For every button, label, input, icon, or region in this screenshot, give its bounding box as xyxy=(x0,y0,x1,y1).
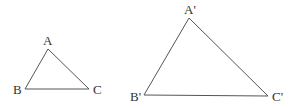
vertex-label-b: B xyxy=(13,82,22,97)
similar-triangles-diagram: A B C A' B' C' xyxy=(0,0,293,108)
vertex-label-c: C xyxy=(93,82,102,97)
triangle-abc: A B C xyxy=(13,33,102,97)
triangle-abc-shape xyxy=(25,49,89,89)
triangle-a-prime-b-prime-c-prime-shape xyxy=(144,18,268,96)
vertex-label-a: A xyxy=(43,33,53,48)
vertex-label-a-prime: A' xyxy=(184,2,196,17)
vertex-label-b-prime: B' xyxy=(130,89,141,104)
triangle-a-prime-b-prime-c-prime: A' B' C' xyxy=(130,2,283,104)
vertex-label-c-prime: C' xyxy=(272,89,283,104)
